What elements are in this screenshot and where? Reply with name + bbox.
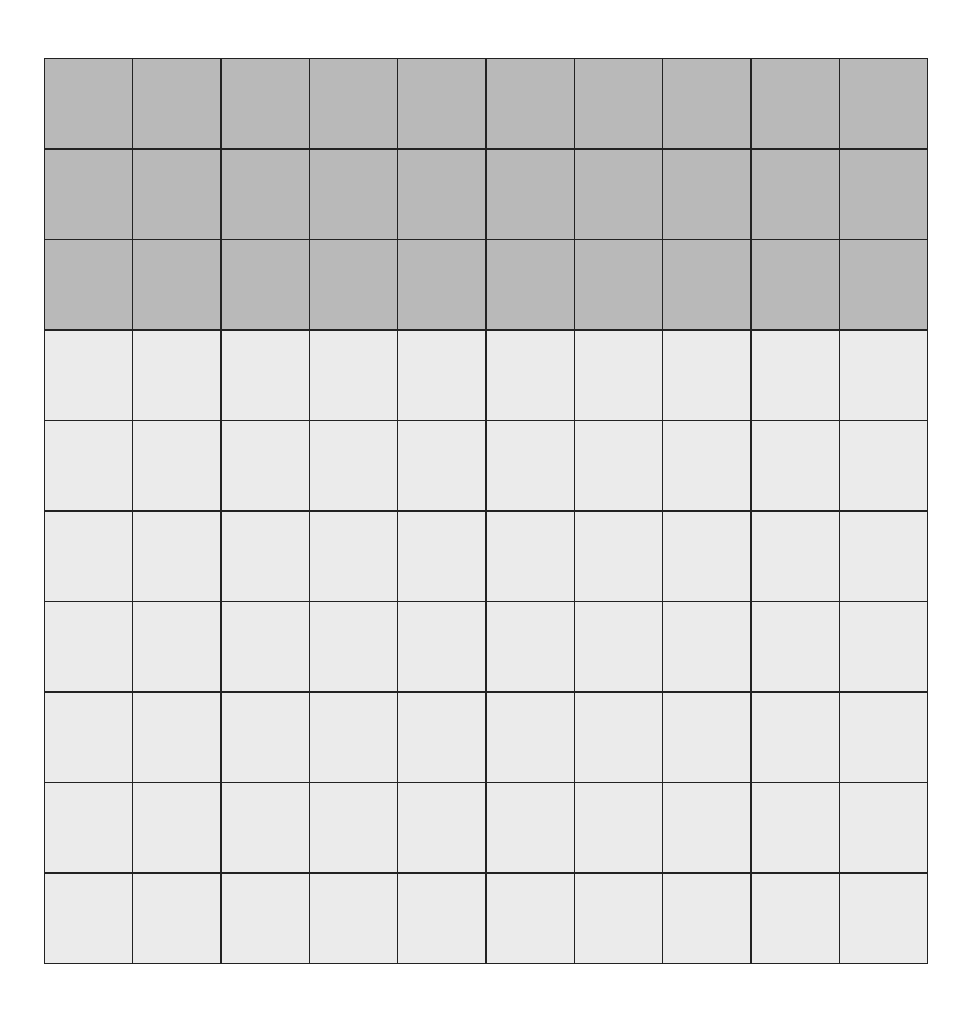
grid-cell-shaded [752,150,839,239]
grid-cell [310,602,397,691]
grid-cell [840,331,927,420]
grid-cell-shaded [310,150,397,239]
grid-cell [663,512,750,601]
grid-cell [310,783,397,872]
grid-cell [575,783,662,872]
grid-cell [752,602,839,691]
grid-cell [487,602,574,691]
grid-cell [487,421,574,510]
grid-cell [575,874,662,963]
grid-cell [133,783,220,872]
grid-cell [663,783,750,872]
grid-cell [752,421,839,510]
grid-cell [840,421,927,510]
grid-cell-shaded [663,240,750,329]
grid-cell-shaded [487,240,574,329]
grid-cell [45,783,132,872]
grid-cell-shaded [663,59,750,148]
grid-cell [222,874,309,963]
grid-cell-shaded [398,59,485,148]
grid-cell [310,693,397,782]
grid-cell [663,602,750,691]
grid-cell [45,693,132,782]
grid-cell [222,331,309,420]
grid-cell [752,693,839,782]
grid-cell [133,421,220,510]
grid-cell-shaded [575,240,662,329]
grid-cell-shaded [45,59,132,148]
grid-cell [45,331,132,420]
grid-cell-shaded [45,240,132,329]
grid-cell [663,331,750,420]
grid-cell-shaded [840,240,927,329]
grid-cell [663,874,750,963]
grid-cell [575,331,662,420]
grid-cell [133,693,220,782]
grid-cell-shaded [45,150,132,239]
hundred-grid [44,58,928,964]
grid-cell [133,602,220,691]
grid-cell-shaded [310,240,397,329]
grid-cell [575,512,662,601]
grid-cell [840,783,927,872]
grid-cell [222,512,309,601]
grid-cell-shaded [133,240,220,329]
grid-cell [487,874,574,963]
grid-cell-shaded [133,59,220,148]
grid-cell-shaded [398,150,485,239]
grid-cell [45,874,132,963]
grid-cell [133,512,220,601]
grid-cell-shaded [222,150,309,239]
grid-cell-shaded [222,59,309,148]
grid-cell-shaded [752,59,839,148]
grid-cell [752,331,839,420]
grid-cell [398,874,485,963]
grid-cell-shaded [487,59,574,148]
grid-cell [398,512,485,601]
grid-cell [222,783,309,872]
grid-cell [310,512,397,601]
grid-cell [310,331,397,420]
grid-cell-shaded [487,150,574,239]
grid-cell [45,421,132,510]
grid-cell [398,693,485,782]
grid-cell [575,693,662,782]
grid-cell [133,874,220,963]
grid-cell [752,512,839,601]
grid-cell [840,693,927,782]
grid-cell [487,693,574,782]
grid-cell-shaded [840,150,927,239]
grid-cell [45,512,132,601]
grid-cell [222,602,309,691]
grid-cell [752,874,839,963]
grid-cell [663,693,750,782]
grid-cell [45,602,132,691]
grid-cell [575,421,662,510]
grid-cell-shaded [222,240,309,329]
grid-cell [222,693,309,782]
grid-cell-shaded [575,59,662,148]
grid-cell [575,602,662,691]
grid-cell-shaded [310,59,397,148]
grid-cell [840,512,927,601]
grid-cell [840,602,927,691]
grid-cell [222,421,309,510]
grid-cell [840,874,927,963]
grid-cell [487,331,574,420]
grid-cell-shaded [575,150,662,239]
grid-cell-shaded [663,150,750,239]
grid-cell [133,331,220,420]
grid-cell-shaded [752,240,839,329]
grid-cell [398,602,485,691]
grid-cell-shaded [840,59,927,148]
grid-cell [398,331,485,420]
grid-cell [398,783,485,872]
grid-cell-shaded [133,150,220,239]
grid-cell-shaded [398,240,485,329]
cropped-caption [40,0,540,4]
grid-cell [398,421,485,510]
grid-cell [310,421,397,510]
grid-cell [487,512,574,601]
grid-cell [663,421,750,510]
grid-cell [487,783,574,872]
